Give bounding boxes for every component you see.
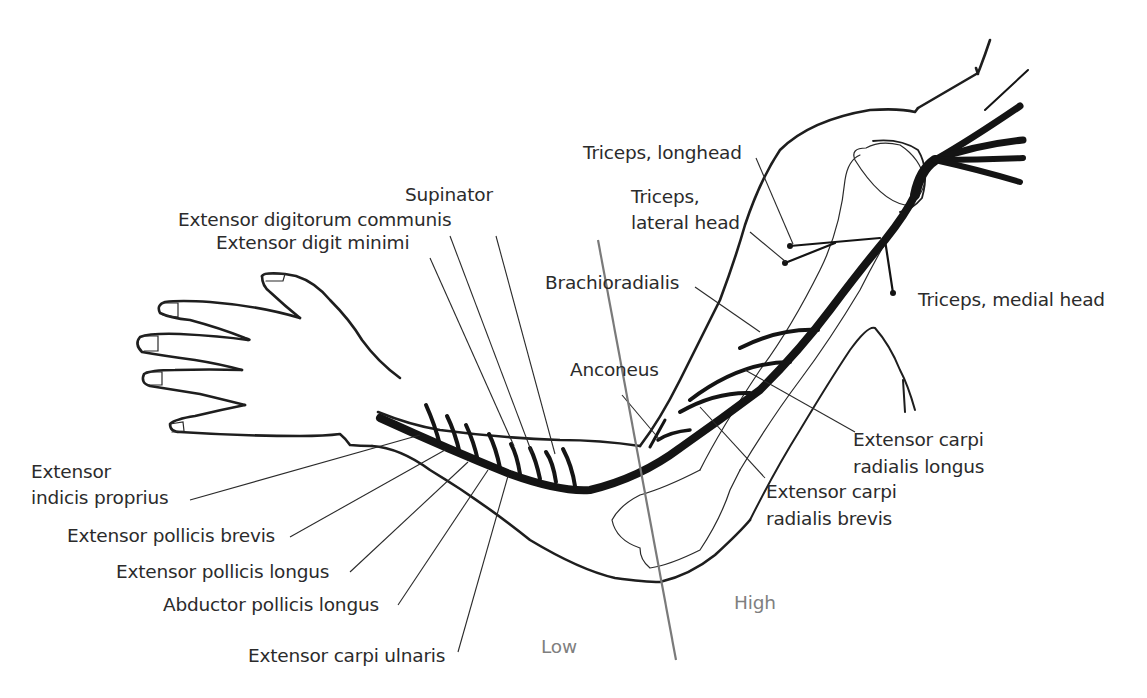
label-extensor-digitorum-communis: Extensor digitorum communis [178, 207, 451, 232]
level-line [598, 240, 676, 660]
label-triceps-longhead: Triceps, longhead [583, 140, 742, 165]
label-extensor-digit-minimi: Extensor digit minimi [216, 230, 409, 255]
label-brachioradialis: Brachioradialis [545, 270, 679, 295]
label-ecr-brevis-2: radialis brevis [766, 506, 892, 531]
label-anconeus: Anconeus [570, 357, 659, 382]
label-ecr-longus-1: Extensor carpi [853, 427, 984, 452]
level-label-low: Low [541, 634, 577, 659]
label-abductor-pollicis-longus: Abductor pollicis longus [163, 592, 379, 617]
label-extensor-carpi-ulnaris: Extensor carpi ulnaris [248, 643, 445, 668]
label-triceps-lateral-head-1: Triceps, [631, 184, 700, 209]
label-extensor-pollicis-brevis: Extensor pollicis brevis [67, 523, 275, 548]
label-triceps-medial-head: Triceps, medial head [918, 287, 1105, 312]
label-extensor-indicis-1: Extensor [31, 459, 111, 484]
label-ecr-brevis-1: Extensor carpi [766, 479, 897, 504]
label-supinator: Supinator [405, 182, 493, 207]
level-label-high: High [734, 590, 776, 615]
label-triceps-lateral-head-2: lateral head [631, 210, 740, 235]
label-extensor-indicis-2: indicis proprius [31, 485, 169, 510]
label-ecr-longus-2: radialis longus [853, 454, 984, 479]
label-extensor-pollicis-longus: Extensor pollicis longus [116, 559, 329, 584]
